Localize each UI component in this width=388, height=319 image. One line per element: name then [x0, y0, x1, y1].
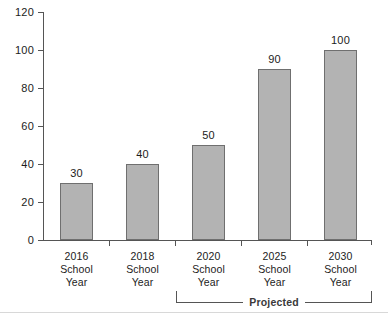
- category-label-2020: 2020 School Year: [175, 250, 242, 289]
- bar-2018: [126, 164, 159, 240]
- category-label-2030: 2030 School Year: [307, 250, 374, 289]
- bar-2030: [324, 50, 357, 240]
- category-label-2016-yearword: Year: [43, 276, 110, 289]
- y-tick-label-0: 0: [0, 235, 34, 246]
- bar-value-2020: 50: [185, 130, 232, 141]
- projected-annotation-label: Projected: [243, 297, 305, 308]
- category-label-2018-year: 2018: [109, 250, 176, 263]
- y-axis-line: [43, 12, 44, 241]
- y-tick-100: [38, 50, 43, 51]
- category-label-2016-school: School: [43, 263, 110, 276]
- y-tick-label-100: 100: [0, 45, 34, 56]
- bar-2016: [60, 183, 93, 240]
- x-tick-boundary-1: [109, 241, 110, 246]
- image-bottom-edge: [0, 312, 388, 313]
- y-tick-40: [38, 164, 43, 165]
- bar-value-2018: 40: [119, 149, 166, 160]
- category-label-2016: 2016 School Year: [43, 250, 110, 289]
- category-label-2025: 2025 School Year: [241, 250, 308, 289]
- y-tick-80: [38, 88, 43, 89]
- y-tick-0: [38, 240, 43, 241]
- y-tick-60: [38, 126, 43, 127]
- y-tick-label-20: 20: [0, 197, 34, 208]
- x-tick-boundary-2: [175, 241, 176, 246]
- x-tick-boundary-4: [307, 241, 308, 246]
- category-label-2018-yearword: Year: [109, 276, 176, 289]
- y-tick-label-120: 120: [0, 7, 34, 18]
- category-label-2020-year: 2020: [175, 250, 242, 263]
- category-label-2020-school: School: [175, 263, 242, 276]
- category-label-2025-school: School: [241, 263, 308, 276]
- category-label-2018-school: School: [109, 263, 176, 276]
- category-label-2030-school: School: [307, 263, 374, 276]
- category-label-2025-yearword: Year: [241, 276, 308, 289]
- x-tick-boundary-3: [241, 241, 242, 246]
- x-axis-end-tick: [371, 240, 372, 245]
- category-label-2020-yearword: Year: [175, 276, 242, 289]
- category-label-2018: 2018 School Year: [109, 250, 176, 289]
- bar-value-2030: 100: [317, 35, 364, 46]
- bar-2020: [192, 145, 225, 240]
- y-tick-20: [38, 202, 43, 203]
- category-label-2016-year: 2016: [43, 250, 110, 263]
- y-tick-120: [38, 12, 43, 13]
- bar-chart: 0 20 40 60 80 100 120 30 40 50 90 100 20…: [0, 0, 388, 319]
- bar-value-2025: 90: [251, 54, 298, 65]
- y-tick-label-80: 80: [0, 83, 34, 94]
- projected-bracket-line-right: [305, 302, 372, 303]
- bar-value-2016: 30: [53, 168, 100, 179]
- category-label-2025-year: 2025: [241, 250, 308, 263]
- category-label-2030-year: 2030: [307, 250, 374, 263]
- y-tick-label-60: 60: [0, 121, 34, 132]
- projected-bracket-line-left: [176, 302, 243, 303]
- y-tick-label-40: 40: [0, 159, 34, 170]
- x-axis-line: [43, 240, 372, 241]
- bar-2025: [258, 69, 291, 240]
- category-label-2030-yearword: Year: [307, 276, 374, 289]
